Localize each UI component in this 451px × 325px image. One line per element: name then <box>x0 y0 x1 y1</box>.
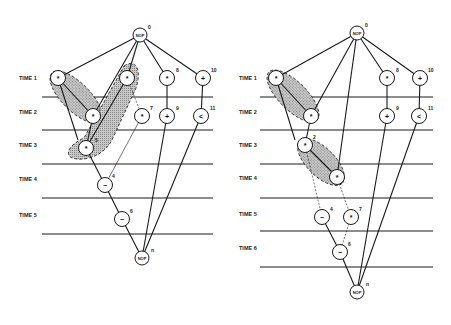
svg-text:−: − <box>103 182 107 189</box>
time-label: TIME 6 <box>239 245 257 251</box>
svg-text:8: 8 <box>396 67 399 73</box>
operation-node: * <box>51 71 66 86</box>
operation-node: − 4 <box>315 206 334 225</box>
left-schedule-diagram: TIME 1 TIME 2 TIME 3 TIME 4 TIME 5 NOP 0… <box>19 24 217 265</box>
svg-text:−: − <box>320 214 324 221</box>
operation-node: * <box>330 170 345 185</box>
svg-text:8: 8 <box>176 67 179 73</box>
time-label: TIME 1 <box>239 75 257 81</box>
operation-node: < 11 <box>412 105 434 124</box>
operation-node: * <box>86 109 101 124</box>
svg-text:*: * <box>85 145 88 152</box>
time-label: TIME 5 <box>19 212 37 218</box>
svg-text:7: 7 <box>150 105 153 111</box>
svg-text:−: − <box>120 216 124 223</box>
time-label: TIME 3 <box>19 142 37 148</box>
svg-text:*: * <box>92 113 95 120</box>
svg-text:0: 0 <box>148 24 151 30</box>
svg-text:*: * <box>310 113 313 120</box>
svg-text:*: * <box>386 75 389 82</box>
svg-text:*: * <box>141 113 144 120</box>
time-labels: TIME 1 TIME 2 TIME 3 TIME 4 TIME 5 <box>19 75 38 218</box>
svg-text:<: < <box>417 113 421 120</box>
svg-text:9: 9 <box>396 105 399 111</box>
svg-text:5: 5 <box>95 137 98 143</box>
svg-text:+: + <box>201 75 205 82</box>
operation-node: + 9 <box>380 105 400 124</box>
svg-text:*: * <box>304 142 307 149</box>
svg-text:0: 0 <box>365 22 368 28</box>
svg-text:<: < <box>199 113 203 120</box>
nop-node-top: NOP 0 <box>350 22 368 40</box>
svg-text:7: 7 <box>359 206 362 212</box>
operation-node: * 7 <box>135 105 154 124</box>
right-schedule-diagram: TIME 1 TIME 2 TIME 3 TIME 4 TIME 5 TIME … <box>239 22 434 299</box>
svg-text:*: * <box>126 75 129 82</box>
time-label: TIME 1 <box>19 75 37 81</box>
svg-text:n: n <box>366 281 369 287</box>
time-labels: TIME 1 TIME 2 TIME 3 TIME 4 TIME 5 TIME … <box>239 75 258 251</box>
svg-text:4: 4 <box>112 173 115 179</box>
svg-text:10: 10 <box>428 67 434 73</box>
svg-text:10: 10 <box>211 67 217 73</box>
svg-text:11: 11 <box>210 105 216 111</box>
svg-text:NOP: NOP <box>353 31 362 36</box>
svg-text:n: n <box>151 247 154 253</box>
operation-node: + 9 <box>160 105 180 124</box>
time-label: TIME 4 <box>19 176 38 182</box>
operation-node: < 11 <box>194 105 216 124</box>
time-label: TIME 5 <box>239 211 257 217</box>
svg-text:+: + <box>418 75 422 82</box>
time-label: TIME 2 <box>239 109 257 115</box>
svg-text:*: * <box>57 75 60 82</box>
operation-node: * <box>269 71 284 86</box>
svg-text:4: 4 <box>330 206 333 212</box>
svg-text:+: + <box>385 113 389 120</box>
svg-text:−: − <box>338 249 342 256</box>
svg-text:9: 9 <box>176 105 179 111</box>
operation-node: + 10 <box>413 67 434 86</box>
svg-text:11: 11 <box>428 105 434 111</box>
operation-node: * 8 <box>380 67 400 86</box>
operation-node: * <box>304 109 319 124</box>
svg-text:*: * <box>166 75 169 82</box>
svg-text:*: * <box>275 75 278 82</box>
svg-text:6: 6 <box>348 241 351 247</box>
svg-text:*: * <box>350 214 353 221</box>
scheduling-diagrams: TIME 1 TIME 2 TIME 3 TIME 4 TIME 5 NOP 0… <box>0 0 451 325</box>
svg-text:NOP: NOP <box>353 290 362 295</box>
time-label: TIME 3 <box>239 142 257 148</box>
operation-node: * 7 <box>344 206 363 225</box>
svg-text:*: * <box>336 174 339 181</box>
svg-text:+: + <box>165 113 169 120</box>
svg-text:NOP: NOP <box>138 256 147 261</box>
nop-node-top: NOP 0 <box>133 24 151 42</box>
time-separators <box>260 97 433 267</box>
svg-text:6: 6 <box>130 208 133 214</box>
operation-node: * <box>120 71 135 86</box>
time-label: TIME 4 <box>239 175 258 181</box>
svg-text:NOP: NOP <box>136 33 145 38</box>
svg-text:2: 2 <box>313 134 316 140</box>
operation-node: + 10 <box>196 67 217 86</box>
time-label: TIME 2 <box>19 109 37 115</box>
